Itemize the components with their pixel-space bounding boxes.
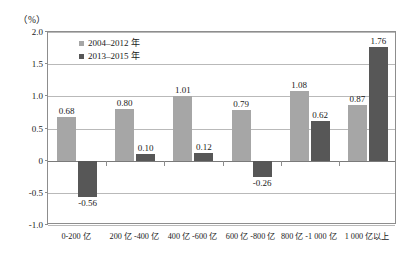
- bar-value-label: 1.76: [361, 36, 395, 46]
- bar-value-label: 0.10: [129, 143, 163, 153]
- legend-swatch-icon-series-2: [79, 54, 84, 59]
- x-axis-category-label: 800 亿 -1 000 亿: [281, 229, 337, 241]
- bar-group: 0.79-0.26: [223, 32, 281, 223]
- bar-value-label: 0.79: [224, 99, 258, 109]
- legend: 2004–2012 年 2013–2015 年: [79, 38, 140, 63]
- bar: 0.68: [57, 117, 76, 161]
- bar-value-label: 0.80: [108, 98, 142, 108]
- x-axis-labels: 0-200 亿200 亿 -400 亿400 亿 -600 亿600 亿 -80…: [47, 229, 396, 243]
- y-axis-tick-label: 1.0: [32, 91, 43, 101]
- x-axis-category-label: 400 亿 -600 亿: [168, 229, 217, 241]
- x-axis-category-label: 0-200 亿: [62, 229, 91, 241]
- bar-value-label: 1.08: [282, 80, 316, 90]
- y-axis-tick-label: -0.5: [29, 188, 43, 198]
- bar: 0.10: [136, 154, 155, 160]
- y-axis-unit-label: （%）: [18, 12, 46, 26]
- bar: 0.79: [232, 110, 251, 161]
- bar-value-label: 0.12: [187, 142, 221, 152]
- legend-item-series-1: 2004–2012 年: [79, 38, 140, 50]
- bar-value-label: -0.56: [71, 198, 105, 208]
- bar: 0.87: [348, 105, 367, 161]
- bar: -0.56: [78, 161, 97, 197]
- legend-swatch-icon-series-1: [79, 41, 84, 46]
- bar-value-label: 0.62: [303, 110, 337, 120]
- y-axis-tick-mark: [45, 224, 48, 225]
- bar: 1.08: [290, 91, 309, 160]
- bar-chart-figure: （%） 2.01.51.00.50-0.5-1.0 0.68-0.560.800…: [0, 0, 415, 259]
- legend-label-series-2: 2013–2015 年: [88, 51, 140, 63]
- x-axis-category-label: 1 000 亿以上: [345, 229, 389, 241]
- bar-group: 0.871.76: [339, 32, 397, 223]
- y-axis-tick-label: 2.0: [32, 27, 43, 37]
- bar: 0.62: [311, 121, 330, 161]
- bar-group: 1.080.62: [281, 32, 339, 223]
- bar-value-label: -0.26: [245, 178, 279, 188]
- gridline: [48, 225, 395, 226]
- bar-group: 1.010.12: [164, 32, 222, 223]
- legend-label-series-1: 2004–2012 年: [88, 38, 140, 50]
- bar: 1.76: [369, 47, 388, 160]
- bar-value-label: 1.01: [166, 85, 200, 95]
- bar: -0.26: [253, 161, 272, 178]
- y-axis-tick-label: 0: [39, 156, 44, 166]
- y-axis-tick-label: 1.5: [32, 59, 43, 69]
- legend-item-series-2: 2013–2015 年: [79, 51, 140, 63]
- y-axis-tick-label: -1.0: [29, 220, 43, 230]
- x-axis-category-label: 200 亿 -400 亿: [110, 229, 159, 241]
- y-axis-tick-label: 0.5: [32, 124, 43, 134]
- bar-value-label: 0.68: [50, 106, 84, 116]
- bar: 0.12: [194, 153, 213, 161]
- x-axis-category-label: 600 亿 -800 亿: [226, 229, 275, 241]
